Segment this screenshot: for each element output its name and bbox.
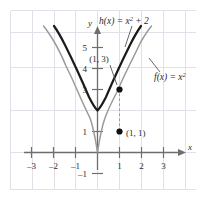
x-tick-label--2: –2 [48, 161, 58, 171]
curve-f-label: f(x) = x2 [154, 71, 187, 84]
curve-h-label-tail: + 2 [133, 16, 149, 26]
f-label-leader [149, 58, 160, 72]
y-axis-label: y [87, 18, 92, 28]
y-tick-label-4: 4 [83, 64, 88, 74]
curve-h-label-text: h(x) = x [99, 16, 130, 27]
y-tick-label-3: 3 [83, 85, 88, 95]
x-tick-label-2: 2 [139, 161, 144, 171]
x-tick-label-1: 1 [117, 161, 122, 171]
point-on-f [116, 128, 122, 134]
x-axis-label: x [187, 142, 192, 152]
y-tick-label-5: 5 [83, 43, 88, 53]
x-tick-label-3: 3 [161, 161, 166, 171]
point-on-h-label: (1, 3) [89, 54, 109, 64]
x-tick-label--3: –3 [26, 161, 37, 171]
graph-figure: –3 –2 –1 1 2 3 5 4 3 1 –1 x y h(x) = x2 … [0, 0, 206, 200]
grid-lines [11, 11, 196, 190]
y-tick-label--1: –1 [77, 169, 87, 179]
curve-h-label: h(x) = x2 + 2 [99, 15, 149, 28]
y-tick-label-1: 1 [83, 127, 88, 137]
point-on-f-label: (1, 1) [126, 128, 146, 138]
curve-f-label-text: f(x) = x [154, 72, 183, 83]
x-axis [24, 149, 186, 156]
point-on-h [116, 86, 122, 92]
